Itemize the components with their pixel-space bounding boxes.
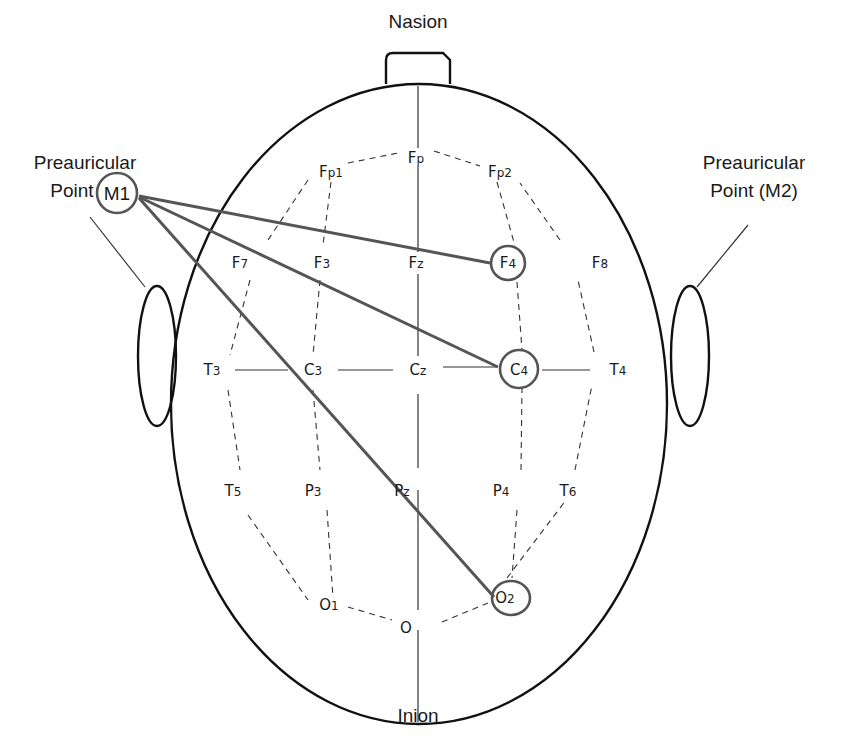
grid-t3-t5 bbox=[228, 390, 240, 470]
grid-fp1-f7 bbox=[268, 180, 308, 240]
electrode-t6: T6 bbox=[559, 482, 577, 500]
electrode-o1: O1 bbox=[319, 596, 338, 614]
grid-c4-p4 bbox=[521, 387, 522, 470]
right-preauricular-label-line2: Point (M2) bbox=[710, 180, 798, 201]
connection-m1-f4 bbox=[139, 196, 490, 263]
electrode-f3: F3 bbox=[314, 254, 330, 272]
electrode-cz: Cz bbox=[410, 361, 427, 379]
left-preauricular-label-line1: Preauricular bbox=[34, 152, 137, 173]
electrode-f4: F4 bbox=[500, 254, 516, 272]
left-ear-leader bbox=[90, 217, 145, 287]
grid-fp1-fp bbox=[348, 153, 398, 163]
eeg-head-diagram: Nasion Inion Preauricular Point M1 Preau… bbox=[0, 0, 844, 741]
connection-m1-c4 bbox=[139, 197, 498, 367]
right-preauricular-label-line1: Preauricular bbox=[703, 152, 806, 173]
grid-f3-c3 bbox=[313, 280, 320, 355]
grid-o1-o bbox=[348, 607, 392, 620]
electrode-pz: Pz bbox=[394, 482, 409, 500]
electrode-f7: F7 bbox=[232, 254, 248, 272]
electrode-fp2: Fp2 bbox=[488, 163, 512, 181]
grid-t6-t4 bbox=[575, 385, 592, 470]
electrode-o: O bbox=[400, 619, 412, 637]
electrode-t5: T5 bbox=[224, 482, 242, 500]
grid-fp1-f3 bbox=[323, 182, 331, 245]
nasion-label: Nasion bbox=[388, 11, 447, 32]
grid-p3-o1 bbox=[327, 510, 333, 598]
grid-fp2-f4 bbox=[497, 182, 515, 246]
left-ear bbox=[138, 286, 176, 426]
electrode-f8: F8 bbox=[592, 254, 608, 272]
grid-t4-f8 bbox=[578, 280, 594, 352]
grid-f8-fp2 bbox=[520, 183, 560, 240]
head-outline bbox=[171, 84, 667, 724]
electrode-c3: C3 bbox=[304, 361, 322, 379]
electrode-fp1: Fp1 bbox=[319, 163, 343, 181]
inion-label: Inion bbox=[397, 705, 438, 726]
electrode-p4: P4 bbox=[493, 482, 510, 500]
electrode-t4: T4 bbox=[609, 361, 627, 379]
electrode-p3: P3 bbox=[305, 482, 322, 500]
nose-shape bbox=[386, 53, 450, 84]
grid-o-o2 bbox=[442, 603, 488, 622]
left-preauricular-label-line2: Point bbox=[50, 180, 94, 201]
grid-o2-t6 bbox=[507, 500, 566, 578]
electrode-t3: T3 bbox=[203, 361, 221, 379]
grid-fp-fp2 bbox=[434, 151, 480, 166]
electrode-fz: Fz bbox=[409, 254, 424, 272]
grid-t5-o1 bbox=[248, 515, 308, 600]
right-ear-leader bbox=[697, 225, 748, 287]
electrode-fp: Fp bbox=[408, 149, 424, 167]
right-ear bbox=[671, 286, 709, 426]
m1-label: M1 bbox=[104, 183, 130, 204]
electrode-o2: O2 bbox=[495, 589, 514, 607]
electrode-c4: C4 bbox=[510, 361, 528, 379]
grid-f4-c4 bbox=[517, 282, 522, 350]
